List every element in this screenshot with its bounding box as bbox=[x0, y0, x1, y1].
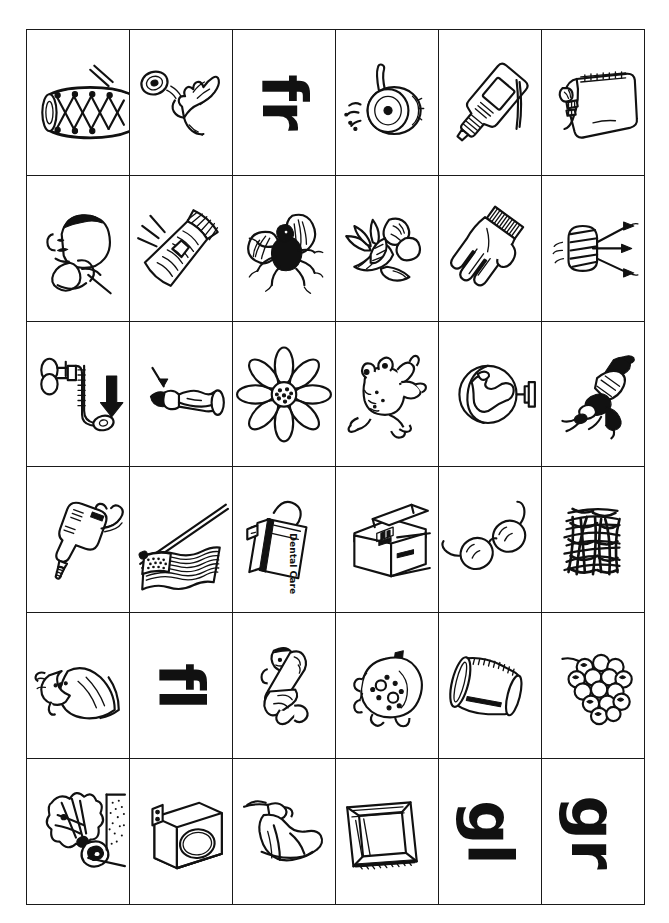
card-cell-blend-fr[interactable]: fr bbox=[233, 30, 336, 176]
drill-icon bbox=[27, 467, 129, 612]
glasses-icon bbox=[439, 467, 541, 612]
card-cell-drill[interactable] bbox=[27, 467, 130, 613]
card-cell-grapes[interactable] bbox=[542, 613, 645, 759]
dryer-machine-icon bbox=[130, 759, 232, 904]
frown-boy-icon bbox=[27, 176, 129, 321]
card-cell-glue[interactable] bbox=[439, 30, 542, 176]
flag-cloth-hand-icon bbox=[233, 759, 335, 904]
grapes-icon bbox=[542, 613, 644, 758]
card-cell-dryer[interactable] bbox=[130, 759, 233, 905]
worksheet-page: fr bbox=[0, 0, 669, 923]
dental-floss-icon: Dental Care bbox=[233, 467, 335, 612]
globe-icon bbox=[439, 322, 541, 467]
glove-icon bbox=[439, 176, 541, 321]
card-cell-frying-pan[interactable] bbox=[336, 30, 439, 176]
blend-text-fl: fl bbox=[150, 663, 212, 709]
card-cell-grass[interactable] bbox=[542, 467, 645, 613]
card-cell-fly[interactable] bbox=[233, 176, 336, 322]
card-cell-drain[interactable] bbox=[27, 322, 130, 468]
blend-text-gl: gl bbox=[459, 800, 521, 864]
card-cell-flower[interactable] bbox=[233, 322, 336, 468]
person-flop-icon bbox=[233, 613, 335, 758]
blend-text-gr: gr bbox=[562, 795, 624, 868]
flashlight-icon bbox=[130, 176, 232, 321]
card-cell-frisbee[interactable] bbox=[130, 30, 233, 176]
faucet-drain-icon bbox=[27, 322, 129, 467]
grapefruit-icon bbox=[336, 613, 438, 758]
dress-gown-icon bbox=[27, 613, 129, 758]
grass-icon bbox=[542, 467, 644, 612]
card-cell-flag[interactable] bbox=[130, 467, 233, 613]
firecracker-icon bbox=[27, 759, 129, 904]
card-cell-freezer[interactable] bbox=[336, 467, 439, 613]
card-cell-gown[interactable] bbox=[27, 613, 130, 759]
card-cell-flea[interactable] bbox=[130, 322, 233, 468]
fruit-bowl-icon bbox=[336, 176, 438, 321]
card-cell-glasses[interactable] bbox=[439, 467, 542, 613]
card-cell-grapefruit[interactable] bbox=[336, 613, 439, 759]
fly-insect-icon bbox=[233, 176, 335, 321]
flower-icon bbox=[233, 322, 335, 467]
card-cell-cloth[interactable] bbox=[233, 759, 336, 905]
frog-icon bbox=[336, 322, 438, 467]
card-cell-firecracker[interactable] bbox=[27, 759, 130, 905]
flea-on-finger-icon bbox=[130, 322, 232, 467]
card-cell-globe[interactable] bbox=[439, 322, 542, 468]
bread-loaf-bag-icon bbox=[542, 30, 644, 175]
freezer-box-icon bbox=[336, 467, 438, 612]
flag-icon bbox=[130, 467, 232, 612]
card-cell-frown[interactable] bbox=[27, 176, 130, 322]
grasshopper-icon bbox=[542, 322, 644, 467]
card-cell-frog[interactable] bbox=[336, 322, 439, 468]
card-cell-drum[interactable] bbox=[27, 30, 130, 176]
card-cell-bread-bag[interactable] bbox=[542, 30, 645, 176]
frying-pan-icon bbox=[336, 30, 438, 175]
card-cell-glass[interactable] bbox=[439, 613, 542, 759]
picture-frame-icon bbox=[336, 759, 438, 904]
frisbee-throw-icon bbox=[130, 30, 232, 175]
card-cell-flop[interactable] bbox=[233, 613, 336, 759]
blend-text-fr: fr bbox=[253, 75, 315, 131]
card-cell-blend-gl[interactable]: gl bbox=[439, 759, 542, 905]
floss-brand-line1: Dental Care bbox=[288, 534, 299, 595]
card-cell-frame[interactable] bbox=[336, 759, 439, 905]
drum-icon bbox=[27, 30, 129, 175]
card-cell-blend-gr[interactable]: gr bbox=[542, 759, 645, 905]
glue-bottle-icon bbox=[439, 30, 541, 175]
grill-icon bbox=[542, 176, 644, 321]
card-cell-blend-fl[interactable]: fl bbox=[130, 613, 233, 759]
card-cell-grasshopper[interactable] bbox=[542, 322, 645, 468]
card-cell-floss[interactable]: Dental Care bbox=[233, 467, 336, 613]
card-cell-glove[interactable] bbox=[439, 176, 542, 322]
picture-card-grid: fr bbox=[26, 29, 645, 905]
card-cell-fruit[interactable] bbox=[336, 176, 439, 322]
card-cell-grill[interactable] bbox=[542, 176, 645, 322]
card-cell-flashlight[interactable] bbox=[130, 176, 233, 322]
drinking-glass-icon bbox=[439, 613, 541, 758]
